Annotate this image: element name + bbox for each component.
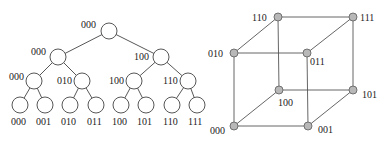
- cube-node: [349, 13, 357, 21]
- tree-edge: [58, 31, 109, 57]
- cube-node-label: 100: [278, 97, 293, 108]
- tree-node-label: 010: [57, 75, 72, 86]
- tree-node-label: 001: [36, 116, 51, 127]
- tree-node-label: 000: [9, 71, 24, 82]
- tree-node: [113, 97, 129, 113]
- tree-node: [126, 73, 142, 89]
- binary-tree: 0000001000000101001100000010100111001011…: [9, 19, 205, 127]
- tree-node-label: 000: [11, 116, 26, 127]
- tree-node: [153, 49, 169, 65]
- cube-node-label: 111: [360, 12, 374, 23]
- cube-node: [230, 49, 238, 57]
- hypercube-graph: 110111010011100101000001: [208, 12, 377, 136]
- tree-node-label: 100: [112, 116, 127, 127]
- cube-node-label: 011: [310, 56, 325, 67]
- tree-node: [88, 97, 104, 113]
- tree-node-label: 110: [163, 116, 178, 127]
- cube-node: [230, 122, 238, 130]
- cube-node-label: 010: [208, 48, 223, 59]
- tree-node: [50, 49, 66, 65]
- tree-node-label: 000: [31, 46, 46, 57]
- tree-node: [74, 73, 90, 89]
- cube-node: [275, 86, 283, 94]
- diagram-canvas: 0000001000000101001100000010100111001011…: [0, 0, 385, 144]
- tree-node-label: 111: [188, 116, 202, 127]
- tree-node-label: 010: [61, 116, 76, 127]
- tree-node-label: 100: [109, 75, 124, 86]
- cube-node-label: 110: [252, 12, 267, 23]
- cube-edge: [234, 90, 279, 126]
- tree-node: [12, 97, 28, 113]
- cube-node-label: 001: [318, 124, 333, 135]
- tree-node-label: 101: [137, 116, 152, 127]
- cube-edge: [278, 17, 279, 90]
- cube-node: [349, 86, 357, 94]
- tree-node-label: 110: [163, 75, 178, 86]
- cube-node: [274, 13, 282, 21]
- tree-node-label: 011: [87, 116, 102, 127]
- tree-node: [26, 73, 42, 89]
- tree-node: [101, 23, 117, 39]
- tree-node-label: 100: [134, 51, 149, 62]
- tree-node: [138, 97, 154, 113]
- cube-edge: [307, 17, 353, 53]
- tree-node-label: 000: [81, 19, 96, 30]
- tree-node: [180, 73, 196, 89]
- tree-node: [189, 97, 205, 113]
- tree-node: [62, 97, 78, 113]
- cube-edge: [307, 53, 308, 126]
- cube-node: [304, 122, 312, 130]
- tree-node: [37, 97, 53, 113]
- cube-node-label: 000: [210, 125, 225, 136]
- cube-edge: [308, 90, 353, 126]
- tree-node: [164, 97, 180, 113]
- cube-node-label: 101: [362, 89, 377, 100]
